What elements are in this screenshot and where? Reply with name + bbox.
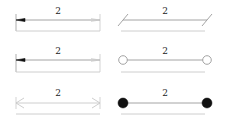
filled-arrowhead-icon [16,18,25,21]
dimension-open-arrow: 2 [16,88,100,114]
dimension-label: 2 [55,6,61,16]
filled-dot-icon [118,98,128,108]
dimension-label: 2 [162,46,168,56]
open-circle-icon [119,56,128,65]
dimension-label: 2 [55,88,61,98]
filled-arrowhead-icon [16,58,25,61]
dimension-group: 222222 [16,6,212,114]
dimension-label: 2 [55,46,61,56]
dimension-filled-dot: 2 [118,88,212,114]
open-circle-icon [203,56,212,65]
dimension-filled-arrow-alt: 2 [16,46,100,72]
dimension-styles-diagram: 222222 [0,0,227,125]
dimension-open-circle: 2 [119,46,212,72]
dimension-label: 2 [162,6,168,16]
filled-dot-icon [202,98,212,108]
dimension-label: 2 [162,88,168,98]
dimension-closed-filled-arrow: 2 [16,6,100,31]
dimension-oblique-tick: 2 [118,6,212,31]
